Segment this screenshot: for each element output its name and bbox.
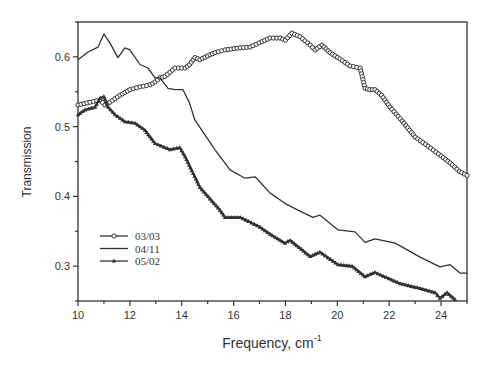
x-tick-label: 16: [227, 309, 239, 321]
legend-item: 05/02: [100, 255, 160, 267]
legend-marker: [112, 234, 116, 238]
x-tick-label: 18: [279, 309, 291, 321]
y-tick-label: 0.4: [55, 190, 70, 202]
x-tick-label: 14: [176, 309, 188, 321]
legend-item: 04/11: [100, 243, 160, 255]
y-axis: 0.30.40.50.6: [55, 22, 78, 301]
legend-marker: [113, 248, 115, 250]
x-tick-label: 12: [124, 309, 136, 321]
x-tick-label: 24: [435, 309, 447, 321]
transmission-chart: 1012141618202224 0.30.40.50.6 03/0304/11…: [0, 0, 494, 373]
series-03-03: [76, 31, 469, 177]
x-axis: 1012141618202224: [72, 301, 467, 321]
x-tick-label: 10: [72, 309, 84, 321]
data-point: [465, 173, 469, 177]
y-axis-title: Transmission: [20, 127, 34, 198]
legend-item: 03/03: [100, 230, 161, 242]
legend-label: 03/03: [135, 230, 161, 242]
x-axis-title-superscript: -1: [314, 333, 322, 343]
legend-label: 04/11: [135, 243, 160, 255]
x-axis-title-text: Frequency, cm: [222, 335, 314, 351]
series-05-02: [76, 94, 457, 301]
y-tick-label: 0.3: [55, 260, 70, 272]
x-axis-title: Frequency, cm-1: [222, 333, 322, 351]
y-tick-label: 0.5: [55, 121, 70, 133]
series-line: [78, 33, 467, 175]
series-line: [78, 97, 455, 300]
legend-label: 05/02: [135, 255, 160, 267]
x-tick-label: 20: [331, 309, 343, 321]
y-tick-label: 0.6: [55, 51, 70, 63]
legend: 03/0304/1105/02: [100, 230, 161, 267]
x-tick-label: 22: [383, 309, 395, 321]
